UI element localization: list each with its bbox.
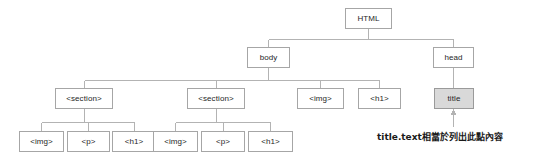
node-title[interactable]: title <box>434 88 474 109</box>
node-img-body[interactable]: <img> <box>297 88 344 109</box>
node-h1-section-2-label: <h1> <box>261 138 280 146</box>
node-img-body-label: <img> <box>309 95 332 103</box>
node-html-label: HTML <box>357 15 379 23</box>
title-annotation-text: title.text相當於列出此點內容 <box>377 130 503 143</box>
edge-section1-bus <box>42 109 135 131</box>
node-h1-section-1-label: <h1> <box>125 138 144 146</box>
node-img-section-1[interactable]: <img> <box>19 131 64 152</box>
node-p-section-2[interactable]: <p> <box>201 131 245 152</box>
node-head-label: head <box>444 54 462 62</box>
node-p-section-1-label: <p> <box>81 138 95 146</box>
node-head[interactable]: head <box>433 47 474 68</box>
node-p-section-2-label: <p> <box>216 138 230 146</box>
node-h1-section-2[interactable]: <h1> <box>248 131 293 152</box>
edge-body-bus <box>85 68 380 88</box>
node-img-section-2[interactable]: <img> <box>153 131 198 152</box>
annotation-arrow-head <box>451 109 457 115</box>
node-img-section-1-label: <img> <box>30 138 53 146</box>
node-body[interactable]: body <box>247 47 290 68</box>
node-img-section-2-label: <img> <box>164 138 187 146</box>
node-h1-section-1[interactable]: <h1> <box>112 131 156 152</box>
node-h1-body-label: <h1> <box>370 95 389 103</box>
node-body-label: body <box>260 54 278 62</box>
node-title-label: title <box>448 95 461 103</box>
node-section-2-label: <section> <box>198 95 234 103</box>
node-html[interactable]: HTML <box>345 8 392 29</box>
node-h1-body[interactable]: <h1> <box>358 88 401 109</box>
node-p-section-1[interactable]: <p> <box>67 131 110 152</box>
node-section-2[interactable]: <section> <box>187 88 245 109</box>
edge-section2-bus <box>176 109 271 131</box>
dom-tree-diagram: HTML body head <section> <section> <img>… <box>0 0 541 161</box>
edge-html-bus <box>269 29 454 47</box>
node-section-1-label: <section> <box>66 95 102 103</box>
node-section-1[interactable]: <section> <box>55 88 113 109</box>
